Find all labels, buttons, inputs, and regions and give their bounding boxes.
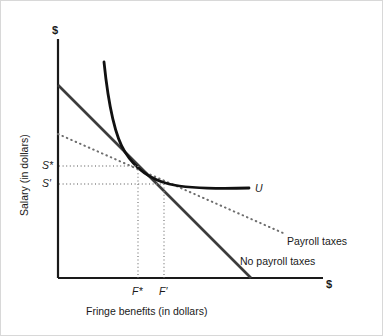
- indifference-curve-label: U: [255, 183, 263, 194]
- no-payroll-taxes-line: [58, 85, 251, 278]
- y-axis-title: Salary (in dollars): [19, 134, 30, 216]
- x-axis-title: Fringe benefits (in dollars): [86, 306, 207, 317]
- y-tick-label-s-prime: S′: [42, 178, 51, 189]
- y-tick-label-s-star: S*: [42, 160, 53, 171]
- payroll-taxes-label: Payroll taxes: [287, 236, 347, 247]
- x-tick-label-f-star: F*: [132, 286, 143, 297]
- no-payroll-taxes-label: No payroll taxes: [240, 256, 315, 267]
- y-axis-dollar-symbol: $: [52, 25, 58, 36]
- x-axis-dollar-symbol: $: [326, 279, 332, 290]
- indifference-curve: [104, 62, 249, 189]
- x-tick-label-f-prime: F′: [159, 286, 167, 297]
- economics-indifference-curve-figure: $ $ Salary (in dollars) Fringe benefits …: [0, 0, 383, 336]
